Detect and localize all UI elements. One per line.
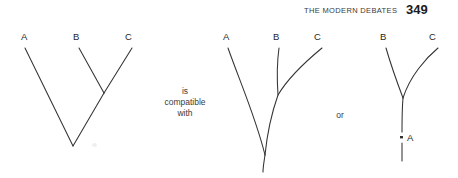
taxon-label-B-right: B (380, 31, 386, 42)
ancestor-marker-A (400, 136, 403, 138)
book-page: THE MODERN DEBATES 349 A B C is compatib… (0, 0, 458, 178)
branch-B-right (386, 48, 403, 98)
taxon-label-C-right: C (429, 31, 436, 42)
taxon-label-A-right: A (407, 132, 414, 143)
tree-right-branches (386, 48, 438, 161)
stem-upper-right (402, 98, 403, 132)
tree-diagram-right: B C A (0, 0, 458, 178)
branch-C-right (403, 48, 438, 98)
